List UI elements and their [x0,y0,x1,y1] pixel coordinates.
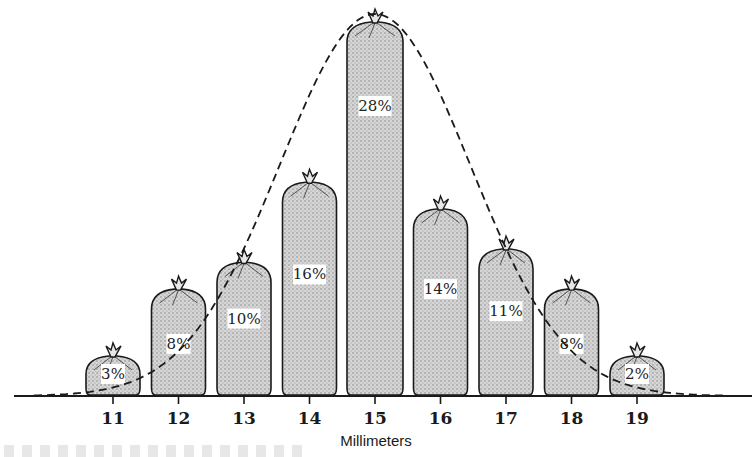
caption-fragment [4,445,304,457]
bag-18: 8% [545,276,599,395]
bag-tie [303,169,318,183]
bag-tie [368,9,383,23]
bag-tie [565,276,580,290]
x-tick-label: 19 [625,408,649,428]
data-label: 14% [424,280,457,298]
x-tick-label: 11 [101,408,125,428]
bag-19: 2% [610,343,664,395]
bag-tie [499,236,514,250]
data-label: 2% [625,365,649,383]
bag-body [347,22,403,395]
bag-15: 28% [347,9,403,395]
x-tick-label: 12 [167,408,191,428]
bags-group: 3%8%10%16%28%14%11%8%2% [86,9,664,395]
bag-tie [434,196,449,210]
data-label: 28% [358,97,391,115]
x-tick-label: 15 [363,408,387,428]
bag-tie [106,343,121,357]
chart: 3%8%10%16%28%14%11%8%2% 1112131415161718… [0,0,754,457]
bag-body [283,182,337,395]
data-label: 11% [489,302,522,320]
bag-body [414,209,468,395]
bag-17: 11% [479,236,533,395]
x-tick-label: 18 [560,408,584,428]
bag-13: 10% [217,249,271,395]
bag-tie [630,343,645,357]
bag-tie [172,276,187,290]
bag-body [217,262,271,395]
x-ticks: 111213141516171819 [101,396,649,428]
bag-16: 14% [414,196,468,395]
bag-body [479,249,533,395]
bag-14: 16% [283,169,337,395]
x-axis-label: Millimeters [340,432,412,449]
x-tick-label: 17 [494,408,518,428]
x-tick-label: 14 [298,408,322,428]
x-tick-label: 16 [429,408,453,428]
bag-tie [237,249,252,263]
data-label: 3% [101,365,125,383]
data-label: 10% [227,310,260,328]
data-label: 16% [293,265,326,283]
x-tick-label: 13 [232,408,256,428]
bag-12: 8% [152,276,206,395]
